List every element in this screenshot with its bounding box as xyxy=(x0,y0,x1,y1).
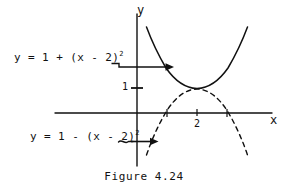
y-axis-tick-label-1: 1 xyxy=(122,82,128,92)
equation-label-lower: y = 1 - (x - 2)2 xyxy=(30,131,140,142)
solid-parabola-curve xyxy=(147,27,248,89)
equation-label-upper-text: y = 1 + (x - 2) xyxy=(14,51,119,64)
figure-caption: Figure 4.24 xyxy=(0,170,288,183)
y-axis-label: y xyxy=(137,4,144,16)
x-axis-tick-label-2: 2 xyxy=(194,119,200,129)
equation-label-lower-exponent: 2 xyxy=(135,129,140,137)
equation-label-upper-exponent: 2 xyxy=(119,50,124,58)
graph-canvas xyxy=(0,0,288,189)
x-axis-label: x xyxy=(270,114,277,126)
figure-container: y = 1 + (x - 2)2 y = 1 - (x - 2)2 y x 1 … xyxy=(0,0,288,189)
equation-label-upper: y = 1 + (x - 2)2 xyxy=(14,52,124,63)
equation-label-lower-text: y = 1 - (x - 2) xyxy=(30,130,135,143)
